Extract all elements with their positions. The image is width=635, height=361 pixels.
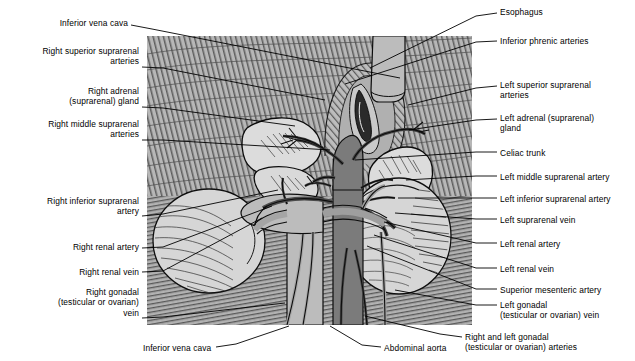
label-celiac-trunk: Celiac trunk: [500, 148, 545, 158]
leader-right-superior-suprarenal-arteries: [142, 67, 325, 100]
leader-left-renal-vein: [374, 235, 497, 268]
leader-left-gonadal-testicular-or-ovarian-vein: [395, 290, 497, 305]
anatomy-figure: Inferior vena cavaRight superior suprare…: [0, 0, 635, 361]
leader-left-superior-suprarenal-arteries: [408, 86, 497, 105]
label-superior-mesenteric-artery: Superior mesenteric artery: [500, 285, 601, 295]
leader-left-suprarenal-vein: [395, 213, 497, 219]
leader-esophagus: [370, 13, 497, 68]
label-left-superior-suprarenal-arteries: Left superior suprarenal arteries: [500, 80, 591, 101]
label-left-suprarenal-vein: Left suprarenal vein: [500, 215, 576, 225]
label-right-renal-artery: Right renal artery: [73, 242, 139, 252]
leader-abdominal-aorta: [330, 326, 381, 347]
leader-inferior-phrenic-arteries: [345, 41, 497, 84]
label-inferior-phrenic-arteries: Inferior phrenic arteries: [500, 36, 589, 46]
label-inferior-vena-cava-top: Inferior vena cava: [60, 18, 128, 28]
label-right-inferior-suprarenal-artery: Right inferior suprarenal artery: [47, 196, 139, 217]
label-left-gonadal-testicular-or-ovarian-vein: Left gonadal (testicular or ovarian) vei…: [500, 300, 599, 321]
label-esophagus: Esophagus: [500, 7, 543, 17]
label-right-renal-vein: Right renal vein: [79, 267, 139, 277]
label-abdominal-aorta: Abdominal aorta: [384, 343, 447, 353]
label-right-adrenal-suprarenal-gland: Right adrenal (suprarenal) gland: [69, 86, 139, 107]
leader-right-middle-suprarenal-arteries: [142, 140, 330, 150]
label-left-middle-suprarenal-artery: Left middle suprarenal artery: [500, 172, 610, 182]
leader-right-renal-artery: [142, 206, 272, 248]
leader-inferior-vena-cava-bottom: [216, 326, 289, 347]
label-left-renal-artery: Left renal artery: [500, 239, 560, 249]
leader-left-renal-artery: [384, 222, 497, 243]
label-right-and-left-gonadal-testicular-or-ovarian-arteries: Right and left gonadal (testicular or ov…: [465, 332, 577, 353]
leader-superior-mesenteric-artery: [367, 246, 497, 289]
leader-right-renal-vein: [142, 218, 262, 272]
label-inferior-vena-cava-bottom: Inferior vena cava: [143, 343, 211, 353]
leader-right-gonadal-testicular-or-ovarian-vein: [142, 303, 285, 318]
leader-left-middle-suprarenal-artery: [406, 176, 497, 180]
label-right-gonadal-testicular-or-ovarian-vein: Right gonadal (testicular or ovarian) ve…: [58, 287, 139, 318]
label-right-superior-suprarenal-arteries: Right superior suprarenal arteries: [42, 46, 139, 67]
leader-right-inferior-suprarenal-artery: [142, 190, 278, 216]
leader-left-adrenal-suprarenal-gland: [409, 119, 497, 130]
leader-right-and-left-gonadal-testicular-or-ovarian-arteries: [365, 316, 462, 337]
leader-celiac-trunk: [355, 152, 497, 160]
leader-right-adrenal-suprarenal-gland: [142, 107, 295, 126]
label-left-inferior-suprarenal-artery: Left inferior suprarenal artery: [500, 194, 611, 204]
label-left-renal-vein: Left renal vein: [500, 264, 554, 274]
label-right-middle-suprarenal-arteries: Right middle suprarenal arteries: [48, 119, 139, 140]
label-left-adrenal-suprarenal-gland: Left adrenal (suprarenal) gland: [500, 113, 594, 134]
